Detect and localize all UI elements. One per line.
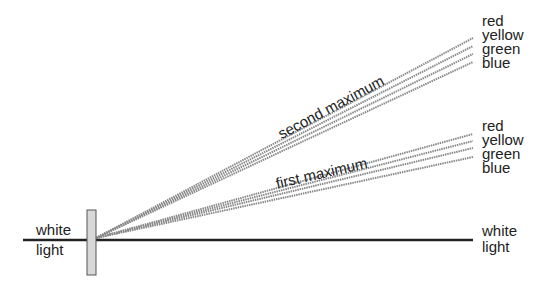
input-label-line1: white <box>36 223 71 237</box>
output-label-line2: light <box>482 240 517 254</box>
output-label-line1: white <box>482 224 517 238</box>
diagram-canvas <box>0 0 553 297</box>
second-maximum-color-labels: red yellow green blue <box>482 14 524 70</box>
color-label-blue: blue <box>482 56 524 70</box>
output-white-light-label: white light <box>482 224 517 254</box>
color-label-blue: blue <box>482 161 524 175</box>
input-white-light-label: white light <box>36 223 71 257</box>
input-label-line2: light <box>36 243 71 257</box>
diffraction-grating <box>87 210 96 275</box>
first-maximum-color-labels: red yellow green blue <box>482 119 524 175</box>
